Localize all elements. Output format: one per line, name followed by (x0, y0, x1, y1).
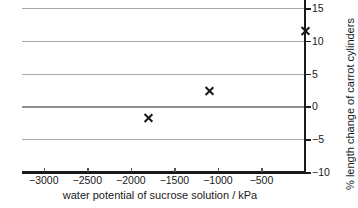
x-tick--3000 (44, 168, 46, 172)
x-tick-label--2500: −2500 (73, 175, 103, 186)
gridline-y--5 (22, 139, 305, 140)
gridline-y-10 (22, 41, 305, 42)
y-tick-label-15: 15 (312, 3, 324, 14)
y-tick-label-5: 5 (312, 69, 318, 80)
y-axis-title: % length change of carrot cylinders (342, 0, 358, 208)
y-tick-10 (306, 41, 311, 43)
gridline-y-5 (22, 74, 305, 75)
x-tick--1500 (174, 168, 176, 172)
x-tick--500 (261, 168, 263, 172)
x-tick-label--3000: −3000 (29, 175, 59, 186)
x-tick--2500 (87, 168, 89, 172)
x-tick-label--1500: −1500 (160, 175, 190, 186)
x-tick--2000 (131, 168, 133, 172)
y-tick-label-0: 0 (312, 101, 318, 112)
scatter-chart-figure: water potential of sucrose solution / kP… (0, 0, 358, 208)
y-axis-line (304, 0, 306, 173)
gridline-y-0 (22, 106, 305, 108)
y-tick-5 (306, 74, 311, 76)
x-tick-label--500: −500 (250, 175, 274, 186)
y-tick-label--10: −10 (312, 167, 330, 178)
gridline-y-15 (22, 8, 305, 9)
y-tick-15 (306, 8, 311, 10)
x-tick-label--2000: −2000 (116, 175, 146, 186)
x-tick-label--1000: −1000 (203, 175, 233, 186)
x-tick--1000 (218, 168, 220, 172)
x-axis-title: water potential of sucrose solution / kP… (0, 190, 320, 201)
y-tick-label-10: 10 (312, 36, 324, 47)
y-tick-label--5: −5 (312, 134, 324, 145)
y-tick-0 (306, 106, 311, 108)
y-tick--10 (306, 172, 311, 174)
y-axis-title-text: % length change of carrot cylinders (344, 18, 356, 190)
plot-area (22, 8, 305, 172)
y-tick--5 (306, 139, 311, 141)
